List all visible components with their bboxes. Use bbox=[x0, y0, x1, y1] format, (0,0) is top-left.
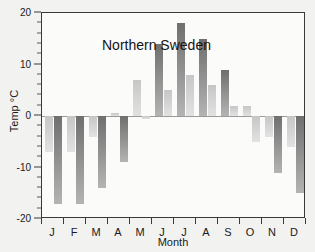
y-tick-label: 20 bbox=[20, 7, 31, 18]
y-tick-mark bbox=[34, 166, 41, 167]
x-tick-mark bbox=[151, 218, 152, 224]
bar-d-s2 bbox=[296, 116, 304, 193]
y-tick-label: 10 bbox=[20, 58, 31, 69]
x-tick-mark bbox=[305, 218, 306, 224]
y-tick-label: -20 bbox=[17, 213, 31, 224]
bar-f-s2 bbox=[76, 116, 84, 204]
bar-m-s1 bbox=[133, 80, 141, 116]
bar-n-s2 bbox=[274, 116, 282, 173]
y-axis: Temp °C 20100-10-20 bbox=[0, 0, 41, 252]
bar-m-s2 bbox=[98, 116, 106, 188]
y-tick-label: 0 bbox=[25, 110, 31, 121]
bar-d-s1 bbox=[287, 116, 295, 147]
bar-o-s1 bbox=[243, 106, 251, 116]
temperature-bar-chart: Temp °C 20100-10-20 Northern Sweden JFMA… bbox=[0, 0, 315, 252]
x-tick-mark bbox=[173, 218, 174, 224]
bar-m-s1 bbox=[89, 116, 97, 137]
x-tick-mark bbox=[217, 218, 218, 224]
bar-j-s2 bbox=[186, 75, 194, 116]
y-tick-mark bbox=[34, 12, 41, 13]
bar-a-s1 bbox=[111, 113, 119, 116]
x-tick-mark bbox=[195, 218, 196, 224]
x-tick-mark bbox=[85, 218, 86, 224]
bar-s-s1 bbox=[221, 70, 229, 116]
x-tick-mark bbox=[107, 218, 108, 224]
plot-area: Northern Sweden bbox=[41, 12, 305, 218]
x-axis-title: Month bbox=[41, 236, 305, 248]
x-tick-mark bbox=[239, 218, 240, 224]
bar-j-s1 bbox=[45, 116, 53, 152]
y-tick-label: -10 bbox=[17, 161, 31, 172]
bar-o-s2 bbox=[252, 116, 260, 142]
y-tick-mark bbox=[34, 115, 41, 116]
x-tick-mark bbox=[41, 218, 42, 224]
bar-n-s1 bbox=[265, 116, 273, 137]
x-tick-mark bbox=[63, 218, 64, 224]
bar-j-s2 bbox=[54, 116, 62, 204]
y-axis-title: Temp °C bbox=[8, 76, 20, 146]
region-annotation-label: Northern Sweden bbox=[102, 37, 211, 53]
x-tick-mark bbox=[261, 218, 262, 224]
x-tick-mark bbox=[283, 218, 284, 224]
bar-j-s1 bbox=[155, 44, 163, 116]
bar-a-s2 bbox=[120, 116, 128, 162]
bar-j-s2 bbox=[164, 90, 172, 116]
bar-s-s2 bbox=[230, 106, 238, 116]
y-tick-mark bbox=[34, 218, 41, 219]
x-tick-mark bbox=[129, 218, 130, 224]
y-tick-mark bbox=[34, 63, 41, 64]
bar-m-s2 bbox=[142, 116, 150, 119]
bar-f-s1 bbox=[67, 116, 75, 152]
bar-a-s2 bbox=[208, 85, 216, 116]
